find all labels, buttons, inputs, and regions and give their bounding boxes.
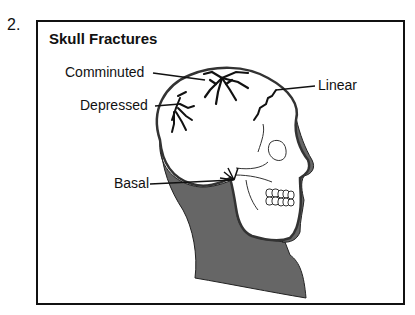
label-comminuted: Comminuted (65, 64, 144, 80)
label-linear: Linear (318, 77, 357, 93)
label-basal: Basal (114, 175, 149, 191)
teeth (266, 189, 294, 206)
skull-illustration (0, 0, 415, 315)
label-depressed: Depressed (80, 97, 148, 113)
